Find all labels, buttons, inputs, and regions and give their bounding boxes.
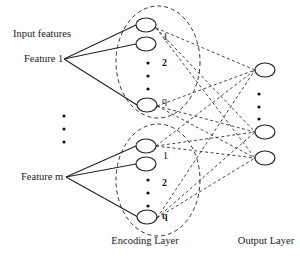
feature-1-connections [64,25,137,105]
encoding-g1-label-q: q [162,95,167,106]
encoding-node-g2-1 [136,139,156,153]
output-node-3 [255,151,275,165]
input-features-title: Input features [13,28,71,39]
encoding-g2-label-q: q [162,210,168,221]
encoding-group-2-boundary [116,124,200,236]
encoding-g2-label-2: 2 [162,177,167,188]
feature-1-label: Feature 1 [24,53,63,64]
encoding-node-g2-2 [136,157,156,171]
encoding-node-g1-2 [136,37,156,51]
input-features-ellipsis [62,114,65,143]
encoding-g1-label-2: 2 [162,57,167,68]
output-layer-nodes [255,63,275,165]
encoding-group-1-ellipsis [146,61,149,90]
feature-m-connections [66,146,138,217]
feature-m-label: Feature m [21,171,63,182]
output-layer-ellipsis [257,92,260,120]
output-node-2 [255,125,275,139]
output-layer-label: Output Layer [238,235,295,246]
encoding-g2-label-1: 1 [163,150,168,161]
encoding-to-output-connections [156,28,255,218]
encoding-group-2-ellipsis [146,178,149,207]
encoding-group-1-boundary [116,6,200,118]
encoding-group-2 [136,139,157,224]
output-node-1 [255,63,275,77]
encoding-node-g1-1 [136,18,156,32]
encoding-g1-label-1: 1 [163,31,168,42]
autoencoder-diagram: 1 2 q 1 2 q Input features Feature 1 Fea… [0,0,300,261]
encoding-group-1 [136,18,157,112]
encoding-layer-label: Encoding Layer [111,235,179,246]
encoding-node-g1-q [137,98,157,112]
encoding-node-g2-q [137,210,157,224]
